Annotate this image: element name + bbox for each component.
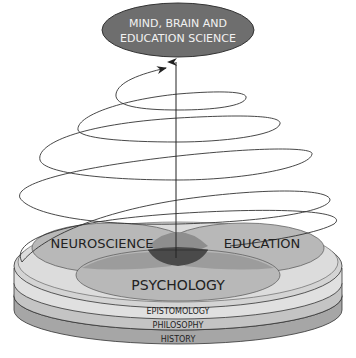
neuroscience-label: NEUROSCIENCE — [50, 236, 153, 251]
philosophy-label: PHILOSOPHY — [153, 321, 204, 330]
education-label: EDUCATION — [224, 236, 300, 251]
title-node: MIND, BRAIN AND EDUCATION SCIENCE — [102, 3, 254, 57]
psychology-label: PSYCHOLOGY — [131, 277, 225, 293]
title-line-1: MIND, BRAIN AND — [129, 17, 227, 30]
history-label: HISTORY — [161, 335, 196, 344]
title-line-2: EDUCATION SCIENCE — [120, 32, 236, 45]
mbe-spiral-diagram: MIND, BRAIN AND EDUCATION SCIENCE NEUROS… — [0, 0, 356, 358]
epistomology-label: EPISTOMOLOGY — [147, 307, 210, 316]
title-ellipse — [102, 3, 254, 57]
